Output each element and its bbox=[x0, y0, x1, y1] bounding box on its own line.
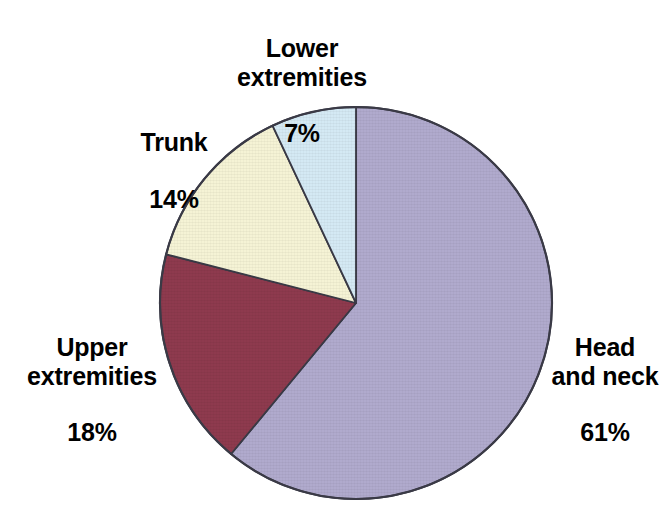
pie-chart-figure: Lower extremities 7% Trunk 14% Upper ext… bbox=[0, 0, 671, 519]
pie-label-upper-extremities: Upper extremities 18% bbox=[4, 305, 180, 475]
pie-label-lower-extremities-name: Lower extremities bbox=[198, 34, 406, 91]
pie-label-upper-extremities-name: Upper extremities bbox=[4, 333, 180, 390]
pie-label-upper-extremities-value: 18% bbox=[4, 418, 180, 446]
pie-label-trunk-value: 14% bbox=[88, 185, 260, 213]
pie-label-trunk-name: Trunk bbox=[88, 128, 260, 156]
pie-label-head-and-neck-name: Head and neck bbox=[540, 333, 670, 390]
pie-label-head-and-neck-value: 61% bbox=[540, 418, 670, 446]
pie-label-trunk: Trunk 14% bbox=[88, 100, 260, 241]
pie-label-head-and-neck: Head and neck 61% bbox=[540, 305, 670, 475]
